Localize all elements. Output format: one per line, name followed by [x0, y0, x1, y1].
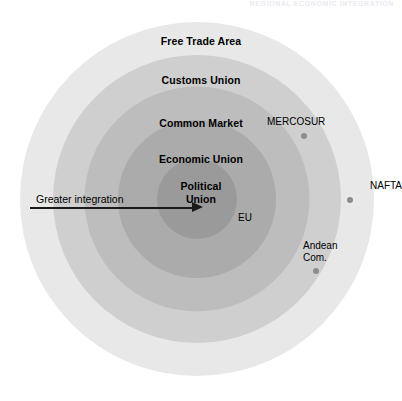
bloc-label-andean-com-line1: Andean — [303, 240, 337, 252]
bloc-label-andean-com: Andean Com. — [303, 240, 337, 263]
running-header: REGIONAL ECONOMIC INTEGRATION — [250, 0, 394, 7]
bloc-dot-mercosur — [301, 133, 307, 139]
greater-integration-label: Greater integration — [36, 193, 124, 205]
ring-label-common-market: Common Market — [0, 117, 402, 129]
bloc-label-andean-com-line2: Com. — [303, 252, 337, 264]
ring-label-customs-union: Customs Union — [0, 74, 402, 86]
bloc-label-eu: EU — [238, 212, 252, 224]
bloc-dot-andean-com — [313, 268, 319, 274]
greater-integration-arrow-line — [30, 207, 197, 209]
ring-label-free-trade-area: Free Trade Area — [0, 35, 402, 47]
ring-label-economic-union: Economic Union — [0, 153, 402, 165]
bloc-label-mercosur: MERCOSUR — [267, 116, 325, 128]
bloc-dot-nafta — [347, 197, 353, 203]
bloc-label-nafta: NAFTA — [370, 180, 402, 192]
right-arrow-icon — [192, 202, 203, 212]
integration-rings-figure: REGIONAL ECONOMIC INTEGRATION Free Trade… — [0, 0, 402, 401]
ring-label-political-union-line1: Political — [0, 180, 402, 193]
